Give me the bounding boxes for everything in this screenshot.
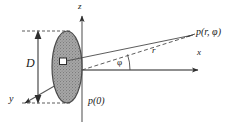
- source-ray: [66, 35, 193, 61]
- angle-label: φ: [117, 58, 122, 67]
- scattering-disc: [52, 31, 82, 103]
- field-point-leader: [186, 34, 195, 37]
- source-element-marker: [60, 58, 67, 65]
- z-axis-label: z: [78, 2, 82, 11]
- radius-label: r: [152, 46, 156, 55]
- radius-ray: [82, 35, 193, 70]
- y-axis-label: y: [9, 94, 13, 104]
- angle-arc: [128, 55, 131, 71]
- x-axis-label: x: [197, 48, 201, 57]
- physics-diagram: z x y D r φ p(0) p(r, φ): [0, 0, 242, 128]
- source-point-label: p(0): [88, 96, 105, 106]
- field-point-label: p(r, φ): [196, 27, 221, 37]
- diameter-label: D: [26, 57, 35, 69]
